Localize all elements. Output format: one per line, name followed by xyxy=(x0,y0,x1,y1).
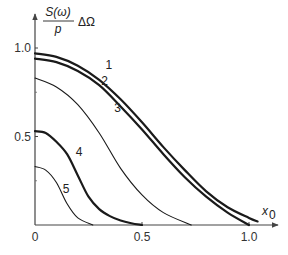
axis-ticks: 00.51.00.51.0 xyxy=(14,41,257,244)
x-tick-label: 1.0 xyxy=(241,230,258,244)
y-tick-label: 1.0 xyxy=(14,41,31,55)
curve-label-1: 1 xyxy=(106,58,113,72)
curve-label-3: 3 xyxy=(114,101,121,115)
x-tick-label: 0 xyxy=(32,230,39,244)
curve-label-4: 4 xyxy=(76,145,83,159)
line-chart: 00.51.00.51.0 12345 S(ω) p ΔΩ x 0 xyxy=(0,0,288,255)
curve-label-2: 2 xyxy=(101,74,108,88)
y-label-denominator: p xyxy=(54,22,62,36)
curves xyxy=(35,53,258,225)
curve-4 xyxy=(35,131,142,225)
x-label-sub: 0 xyxy=(269,208,276,222)
x-label-base: x xyxy=(261,204,269,218)
x-axis-title: x 0 xyxy=(261,204,276,222)
y-tick-label: 0.5 xyxy=(14,130,31,144)
y-label-numerator: S(ω) xyxy=(45,5,70,19)
curve-1 xyxy=(35,53,258,221)
curve-label-5: 5 xyxy=(63,182,70,196)
y-axis-title: S(ω) p ΔΩ xyxy=(43,5,95,36)
x-tick-label: 0.5 xyxy=(134,230,151,244)
y-label-suffix: ΔΩ xyxy=(78,15,95,29)
